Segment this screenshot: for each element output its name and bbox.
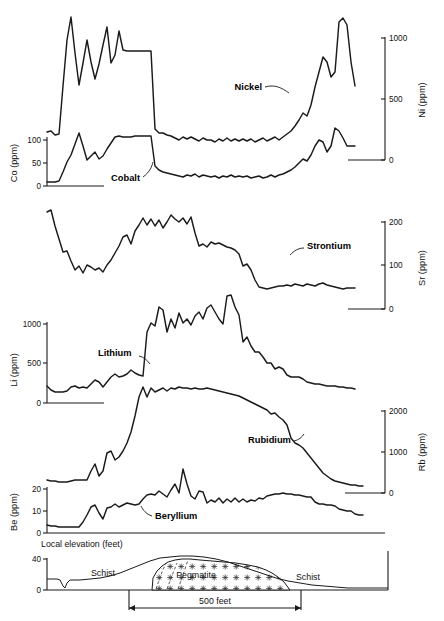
pegmatite-body [152,559,290,590]
panel-strontium-lithium: 1000 500 0 Li (ppm) 200 100 0 Sr (ppm) [9,210,427,408]
elev-tick-0: 0 [36,586,41,595]
co-axis-title: Co (ppm) [9,144,19,182]
geochemical-profile-figure: 100 50 0 Co (ppm) 1000 500 0 Ni (ppm) [0,0,444,621]
elev-tick-40: 40 [32,555,42,564]
cobalt-trace [47,128,355,182]
ni-tick-0: 0 [389,156,394,165]
local-elevation-title: Local elevation (feet) [41,539,123,549]
sr-tick-0: 0 [389,305,394,314]
series-label-nickel: Nickel [235,82,262,92]
label-schist-right: Schist [296,572,321,582]
series-label-beryllium: Beryllium [155,511,197,521]
ni-axis: 1000 500 0 Ni (ppm) [348,34,427,165]
scale-bar-label: 500 feet [199,596,231,606]
sr-tick-100: 100 [389,261,403,270]
figure-svg: 100 50 0 Co (ppm) 1000 500 0 Ni (ppm) [0,0,444,621]
label-schist-left: Schist [91,568,116,578]
sr-tick-200: 200 [389,218,403,227]
series-label-lithium: Lithium [98,348,132,358]
be-axis-title: Be (ppm) [9,493,19,531]
label-pegmatite: Pegmatite [176,570,216,580]
rubidium-trace [47,387,363,486]
series-label-rubidium: Rubidium [248,435,291,445]
be-tick-0: 0 [36,529,41,538]
rb-tick-1000: 1000 [389,448,408,457]
ni-axis-title: Ni (ppm) [417,82,427,117]
rb-tick-2000: 2000 [389,407,408,416]
scale-bar: 500 feet [129,590,301,611]
rb-axis-title: Rb (ppm) [417,433,427,471]
li-axis-title: Li (ppm) [9,353,19,387]
series-label-strontium: Strontium [307,241,351,251]
lithium-trace [47,295,355,392]
co-axis: 100 50 0 Co (ppm) [9,136,104,191]
rb-tick-0: 0 [389,489,394,498]
li-axis: 1000 500 0 Li (ppm) [9,320,104,408]
nickel-trace [47,17,355,142]
li-tick-1000: 1000 [23,320,42,329]
panel-cross-section: Local elevation (feet) 40 0 Schist Pegma… [32,539,388,611]
beryllium-trace [47,469,363,527]
elevation-axis: 40 0 [32,555,47,595]
panel-rubidium-beryllium: 20 10 0 Be (ppm) 2000 1000 0 Rb (ppm) [9,387,427,538]
panel-nickel-cobalt: 100 50 0 Co (ppm) 1000 500 0 Ni (ppm) [9,17,427,191]
series-label-cobalt: Cobalt [111,173,140,183]
ni-tick-500: 500 [389,95,403,104]
be-tick-20: 20 [32,485,42,494]
co-tick-100: 100 [27,136,41,145]
sr-axis: 200 100 0 Sr (ppm) [348,218,427,314]
rb-axis: 2000 1000 0 Rb (ppm) [345,407,427,498]
ni-tick-1000: 1000 [389,34,408,43]
li-tick-0: 0 [36,399,41,408]
be-tick-10: 10 [32,507,42,516]
co-tick-0: 0 [36,182,41,191]
co-tick-50: 50 [32,159,42,168]
li-tick-500: 500 [27,359,41,368]
sr-axis-title: Sr (ppm) [417,250,427,286]
